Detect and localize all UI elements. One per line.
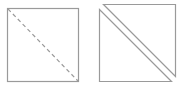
lower-left-triangle [100,10,172,82]
square-cut-diagram [0,0,184,86]
cut-square [100,5,176,82]
folded-square [8,9,79,82]
dashed-diagonal [8,9,78,81]
upper-right-triangle [104,5,176,77]
diagram-canvas [0,0,184,86]
